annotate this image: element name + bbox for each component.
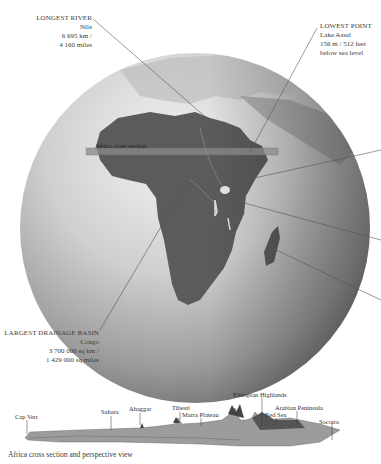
lowest-point-name: Lake Assal [320, 31, 372, 40]
largest-basin-miles: 1 429 000 sq miles [4, 356, 99, 365]
profile-label-sahara: Sahara [101, 408, 119, 416]
profile-label-arabian-peninsula: Arabian Peninsula [275, 404, 323, 412]
largest-basin-title: LARGEST DRAINAGE BASIN [4, 329, 99, 338]
globe-map [0, 0, 381, 464]
profile-label-cap-vert: Cap Vert [15, 413, 38, 421]
callout-lowest-point: LOWEST POINT Lake Assal 156 m / 512 feet… [320, 22, 372, 58]
lowest-point-depth: 156 m / 512 feet [320, 40, 372, 49]
callout-longest-river: LONGEST RIVER Nile 6 695 km / 4 160 mile… [10, 14, 92, 50]
profile-label-socotra: Socotra [319, 418, 339, 426]
cross-section-band [86, 148, 278, 155]
longest-river-km: 6 695 km / [10, 32, 92, 41]
longest-river-name: Nile [10, 23, 92, 32]
largest-basin-km: 3 700 000 sq km / [4, 347, 99, 356]
largest-basin-name: Congo [4, 338, 99, 347]
longest-river-miles: 4 160 miles [10, 41, 92, 50]
callout-largest-drainage-basin: LARGEST DRAINAGE BASIN Congo 3 700 000 s… [4, 329, 99, 365]
profile-caption: Africa cross section and perspective vie… [8, 450, 133, 459]
profile-label-red-sea: Red Sea [265, 411, 286, 419]
cross-section-label: Africa cross section [95, 142, 147, 149]
profile-label-marra-plateau: Marra Plateau [182, 411, 219, 419]
lowest-point-note: below sea level [320, 49, 372, 58]
profile-label-ahaggar: Ahaggar [129, 405, 151, 413]
profile-label-ethiopian-highlands: Ethiopian Highlands [233, 391, 287, 399]
lowest-point-title: LOWEST POINT [320, 22, 372, 31]
longest-river-title: LONGEST RIVER [10, 14, 92, 23]
